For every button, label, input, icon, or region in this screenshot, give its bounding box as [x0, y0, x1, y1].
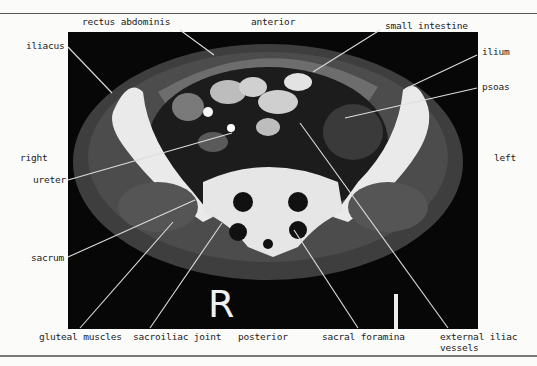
label-right: right	[20, 152, 48, 163]
bottom-rule	[0, 355, 537, 357]
label-posterior: posterior	[238, 331, 288, 342]
label-psoas: psoas	[482, 81, 510, 92]
label-sacrum: sacrum	[31, 252, 64, 263]
label-ureter: ureter	[33, 174, 66, 185]
label-iliacus: iliacus	[26, 40, 65, 51]
ct-scan-image: R	[68, 32, 478, 329]
label-sacral-foramina: sacral foramina	[322, 331, 405, 342]
label-external-iliac-line2: vessels	[440, 342, 479, 353]
ct-scan-drawing	[68, 32, 478, 329]
label-ilium: ilium	[482, 46, 510, 57]
label-anterior: anterior	[251, 16, 295, 27]
left-side-marker	[394, 294, 398, 329]
top-rule	[0, 13, 537, 14]
label-small-intestine: small intestine	[385, 20, 468, 31]
label-sacroiliac-joint: sacroiliac joint	[133, 331, 221, 342]
label-gluteal-muscles: gluteal muscles	[39, 331, 122, 342]
label-external-iliac-line1: external iliac	[440, 331, 517, 342]
label-left: left	[494, 152, 516, 163]
label-rectus-abdominis: rectus abdominis	[82, 16, 170, 27]
right-side-marker: R	[208, 284, 234, 324]
